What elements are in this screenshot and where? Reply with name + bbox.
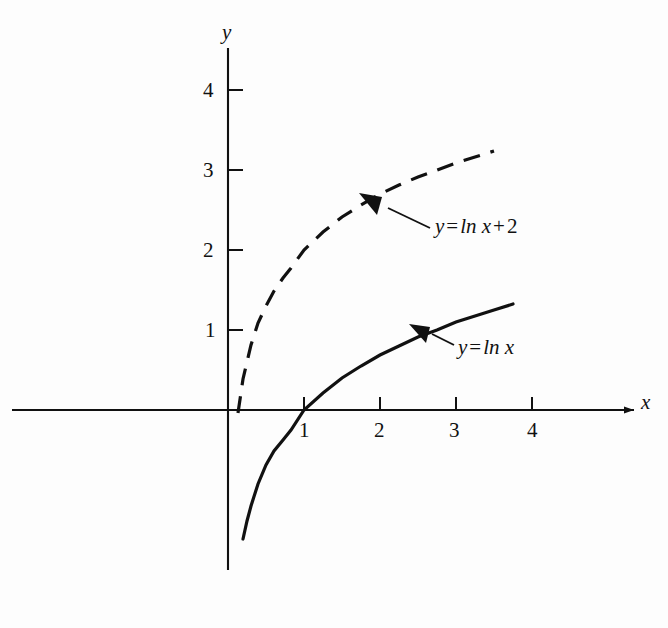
- x-tick-label-3: 3: [449, 420, 460, 441]
- curve-label-ln-x: y=ln x: [458, 337, 514, 358]
- dashed-label-var: x: [482, 214, 491, 238]
- x-tick-label-4: 4: [527, 420, 538, 441]
- y-axis-label: y: [222, 22, 231, 43]
- curve-label-ln-x-plus-2: y=ln x+2: [435, 216, 517, 237]
- curve-ln-x-plus-2: [238, 151, 494, 413]
- x-axis-arrowhead: [624, 406, 634, 413]
- dashed-label-fn: ln: [460, 214, 476, 238]
- plot-area: [0, 0, 668, 628]
- y-tick-label-1: 1: [205, 320, 216, 341]
- solid-label-lhs: y: [458, 335, 467, 359]
- x-axis-label: x: [641, 392, 650, 413]
- dashed-label-const: 2: [507, 214, 518, 238]
- y-tick-label-4: 4: [203, 80, 214, 101]
- y-tick-label-3: 3: [203, 160, 214, 181]
- x-tick-label-1: 1: [299, 420, 310, 441]
- figure-canvas: y x 4 3 2 1 1 2 3 4 y=ln x+2 y=ln x: [0, 0, 668, 628]
- x-tick-label-2: 2: [374, 420, 385, 441]
- dashed-label-plus: +: [491, 214, 507, 238]
- annotation-arrow-line-dashed: [388, 208, 430, 228]
- annotation-arrow-line-solid: [432, 334, 454, 345]
- y-tick-label-2: 2: [203, 240, 214, 261]
- solid-label-fn: ln: [483, 335, 499, 359]
- dashed-label-lhs: y: [435, 214, 444, 238]
- solid-label-equals: =: [467, 335, 483, 359]
- dashed-label-equals: =: [444, 214, 460, 238]
- solid-label-var: x: [505, 335, 514, 359]
